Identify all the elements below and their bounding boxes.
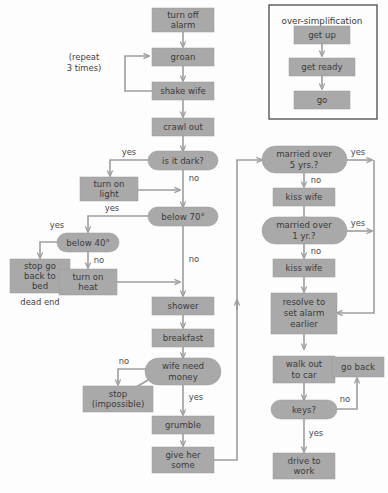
node-breakfast-label: breakfast [163, 333, 204, 343]
node-married1-line1: married over [276, 220, 332, 230]
node-crawl-out-label: crawl out [163, 122, 203, 132]
label-below70-yes: yes [105, 203, 119, 213]
node-stop-go-back-line3: bed [32, 281, 48, 291]
node-stop-impossible-line2: (impossible) [92, 399, 145, 409]
label-keys-no: no [340, 394, 350, 404]
node-below-70-label: below 70° [161, 212, 204, 222]
node-turn-on-light-line1: turn on [93, 179, 124, 189]
node-resolve-line2: set alarm [284, 308, 325, 318]
node-drive-to-work-line2: work [294, 466, 315, 476]
node-is-it-dark-label: is it dark? [162, 156, 204, 166]
node-go-back-label: go back [341, 362, 375, 372]
edge-dark-yes [110, 160, 152, 176]
flowchart-svg: turn off alarm groan shake wife crawl ou… [0, 0, 388, 493]
label-married5-yes: yes [351, 147, 365, 157]
node-walk-out-line1: walk out [286, 359, 323, 369]
node-married5-line1: married over [276, 149, 332, 159]
node-below-40-label: below 40° [66, 238, 109, 248]
node-give-her-some-line1: give her [165, 450, 201, 460]
node-kiss-wife-2-label: kiss wife [286, 263, 323, 273]
label-money-no: no [119, 356, 129, 366]
note-dead-end: dead end [20, 297, 59, 307]
node-resolve-line3: earlier [290, 319, 318, 329]
label-dark-yes: yes [122, 147, 136, 157]
note-repeat-line2: 3 times) [67, 63, 102, 73]
label-money-yes: yes [189, 392, 203, 402]
node-turn-off-alarm-line1: turn off [167, 10, 200, 20]
edge-give-to-married5 [214, 160, 262, 460]
label-dark-no: no [189, 173, 199, 183]
node-keys-label: keys? [292, 405, 316, 415]
node-groan-label: groan [171, 52, 196, 62]
label-below40-yes: yes [50, 220, 64, 230]
node-turn-on-heat-line1: turn on [72, 272, 103, 282]
inset-title: over-simplification [282, 16, 363, 26]
node-stop-impossible-line1: stop [109, 389, 128, 399]
edge-below40-yes [40, 242, 58, 258]
edge-money-no [118, 369, 146, 385]
flowchart-canvas: turn off alarm groan shake wife crawl ou… [0, 0, 388, 493]
node-drive-to-work-line1: drive to [287, 456, 320, 466]
edge-repeat-loop [125, 56, 152, 91]
node-give-her-some-line2: some [171, 460, 194, 470]
node-married5-line2: 5 yrs.? [290, 160, 319, 170]
node-grumble-label: grumble [165, 420, 201, 430]
node-shower-label: shower [167, 301, 198, 311]
node-resolve-line1: resolve to [283, 297, 326, 307]
label-married5-no: no [311, 175, 321, 185]
node-walk-out-line2: to car [292, 370, 317, 380]
inset-node-go-label: go [317, 95, 328, 105]
inset-node-get-ready-label: get ready [301, 62, 342, 72]
label-married1-yes: yes [351, 218, 365, 228]
node-wife-need-money-line1: wife need [162, 361, 204, 371]
node-turn-on-light-line2: light [99, 189, 119, 199]
node-stop-go-back-line1: stop go [24, 261, 56, 271]
inset-node-get-up-label: get up [308, 30, 336, 40]
node-stop-go-back-line2: back to [24, 271, 56, 281]
node-wife-need-money-line2: money [168, 372, 197, 382]
note-repeat-line1: (repeat [69, 52, 100, 62]
label-married1-no: no [311, 246, 321, 256]
edge-below70-yes [88, 216, 152, 232]
label-below70-no: no [189, 254, 199, 264]
node-shake-wife-label: shake wife [160, 86, 206, 96]
node-turn-off-alarm-line2: alarm [171, 20, 196, 30]
label-below40-no: no [94, 255, 104, 265]
label-keys-yes: yes [309, 428, 323, 438]
node-kiss-wife-1-label: kiss wife [286, 192, 323, 202]
node-married1-line2: 1 yr.? [292, 231, 315, 241]
node-turn-on-heat-line2: heat [78, 282, 98, 292]
